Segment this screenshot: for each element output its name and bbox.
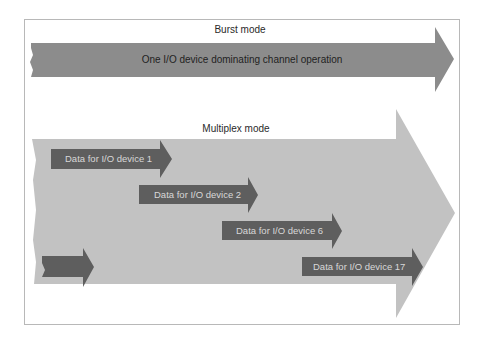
- device-2-label: Data for I/O device 2: [154, 189, 241, 200]
- multiplex-mode-arrow: [32, 109, 455, 318]
- device-6-label: Data for I/O device 6: [236, 225, 323, 236]
- device-17-label: Data for I/O device 17: [313, 261, 405, 272]
- diagram-canvas: [0, 0, 482, 339]
- burst-mode-title: Burst mode: [214, 24, 265, 35]
- burst-arrow-label: One I/O device dominating channel operat…: [142, 54, 343, 65]
- multiplex-mode-title: Multiplex mode: [202, 123, 269, 134]
- device-1-label: Data for I/O device 1: [65, 153, 152, 164]
